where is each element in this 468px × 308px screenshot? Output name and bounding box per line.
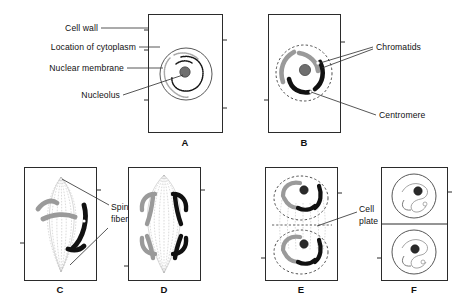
label-cell-wall: Cell wall xyxy=(65,23,98,33)
label-chromatids: Chromatids xyxy=(376,42,421,52)
panel-letter-b: B xyxy=(301,137,308,148)
panel-letter-a: A xyxy=(182,137,189,148)
panel-letter-d: D xyxy=(161,284,168,295)
centromere-b1 xyxy=(316,61,319,64)
panel-d-cell-wall xyxy=(129,168,201,281)
nucleolus-e-top xyxy=(300,186,308,194)
nucleolus-e-bottom xyxy=(300,240,308,248)
label-nuclear-membrane: Nuclear membrane xyxy=(49,63,124,73)
panel-letter-e: E xyxy=(298,284,304,295)
label-cell-plate-line2: plate xyxy=(359,216,378,226)
nucleolus-f-bottom xyxy=(411,245,419,253)
vacuole-f-top xyxy=(423,202,427,206)
panel-f: F xyxy=(377,168,452,296)
panel-d: D xyxy=(124,168,205,296)
mitosis-diagram: Cell wall Location of cytoplasm Nuclear … xyxy=(0,0,468,308)
label-nucleolus: Nucleolus xyxy=(81,90,120,100)
vacuole-f-bottom xyxy=(421,260,425,264)
label-centromere: Centromere xyxy=(379,110,425,120)
label-cell-plate-line1: Cell xyxy=(359,204,374,214)
panel-a: Cell wall Location of cytoplasm Nuclear … xyxy=(49,15,227,149)
panel-e: Cell plate E xyxy=(261,168,378,296)
label-location-of-cytoplasm: Location of cytoplasm xyxy=(51,42,136,52)
nucleolus-f-top xyxy=(414,187,422,195)
panel-b: Chromatids Centromere B xyxy=(264,15,425,149)
panel-letter-f: F xyxy=(411,284,417,295)
panel-letter-c: C xyxy=(57,284,64,295)
panel-c: Spindle fibers C xyxy=(20,168,140,296)
nucleolus-b xyxy=(299,64,310,75)
centromere-c xyxy=(82,219,85,222)
